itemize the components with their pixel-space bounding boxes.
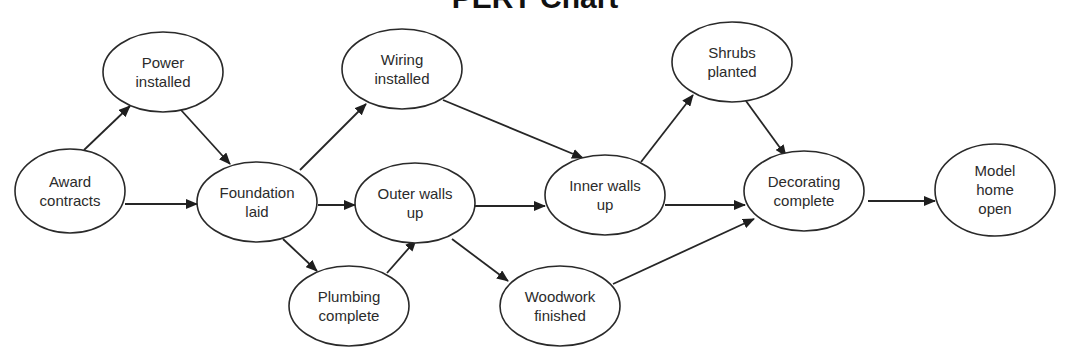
node-label: Shrubs (708, 44, 756, 61)
node-label: home (976, 181, 1014, 198)
node-label: Wiring (381, 51, 424, 68)
edge-plumbing-to-outer (387, 240, 416, 273)
node-label: contracts (40, 192, 101, 209)
node-label: open (978, 200, 1011, 217)
nodes-layer: AwardcontractsPowerinstalledFoundationla… (15, 22, 1055, 346)
chart-title: PERT Chart (452, 0, 619, 14)
pert-chart-diagram: PERT Chart AwardcontractsPowerinstalledF… (0, 0, 1068, 354)
node-label: Power (142, 54, 185, 71)
node-decorating: Decoratingcomplete (744, 151, 864, 231)
node-label: Inner walls (569, 177, 641, 194)
node-award: Awardcontracts (15, 149, 125, 233)
node-label: Plumbing (318, 288, 381, 305)
node-label: finished (534, 307, 586, 324)
node-shrubs: Shrubsplanted (672, 22, 792, 102)
node-label: planted (707, 63, 756, 80)
node-label: Outer walls (377, 185, 452, 202)
node-label: Model (975, 162, 1016, 179)
node-label: installed (374, 70, 429, 87)
edge-wiring-to-inner (443, 100, 583, 158)
node-label: Foundation (219, 184, 294, 201)
node-model: Modelhomeopen (935, 144, 1055, 236)
node-label: laid (245, 203, 268, 220)
node-foundation: Foundationlaid (197, 162, 317, 242)
edge-foundation-to-wiring (300, 104, 366, 170)
node-label: Award (49, 173, 91, 190)
node-label: up (597, 196, 614, 213)
edge-foundation-to-plumbing (283, 239, 317, 271)
edge-award-to-power (84, 106, 130, 150)
edge-inner-to-shrubs (641, 95, 693, 162)
node-inner: Inner wallsup (545, 155, 665, 235)
node-label: up (407, 204, 424, 221)
node-woodwork: Woodworkfinished (500, 266, 620, 346)
node-label: installed (135, 73, 190, 90)
edge-power-to-foundation (181, 110, 230, 164)
node-label: complete (319, 307, 380, 324)
node-power: Powerinstalled (103, 32, 223, 112)
node-outer: Outer wallsup (355, 163, 475, 243)
node-label: complete (774, 192, 835, 209)
node-plumbing: Plumbingcomplete (289, 266, 409, 346)
edge-outer-to-woodwork (452, 239, 508, 281)
node-wiring: Wiringinstalled (342, 29, 462, 109)
edge-shrubs-to-decorating (746, 101, 786, 156)
node-label: Decorating (768, 173, 841, 190)
node-label: Woodwork (525, 288, 596, 305)
